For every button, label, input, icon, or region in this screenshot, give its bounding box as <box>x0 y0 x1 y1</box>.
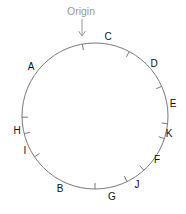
label-g: G <box>108 191 116 202</box>
origin-marker: Origin <box>67 5 95 36</box>
label-f: F <box>154 154 160 165</box>
point-labels: C D E K F J G B I H A <box>13 31 176 202</box>
label-e: E <box>170 98 177 109</box>
label-k: K <box>166 128 173 139</box>
tick-mark <box>159 137 165 139</box>
tick-mark <box>124 176 127 181</box>
tick-mark <box>24 132 30 133</box>
label-c: C <box>104 31 111 42</box>
tick-mark <box>126 52 129 57</box>
tick-mark <box>156 86 161 88</box>
label-h: H <box>13 125 20 136</box>
tick-mark <box>140 166 144 170</box>
tick-mark <box>34 153 39 156</box>
label-d: D <box>150 58 157 69</box>
circle-diagram: Origin C D E K F J G B I H A <box>0 0 186 214</box>
tick-mark <box>82 44 83 50</box>
main-circle <box>22 43 168 189</box>
label-b: B <box>57 183 64 194</box>
tick-mark <box>162 123 168 124</box>
tick-marks <box>22 44 168 189</box>
label-j: J <box>135 179 140 190</box>
origin-label: Origin <box>67 5 95 17</box>
label-a: A <box>28 61 35 72</box>
origin-arrow-icon <box>79 19 86 36</box>
label-i: I <box>24 145 27 156</box>
